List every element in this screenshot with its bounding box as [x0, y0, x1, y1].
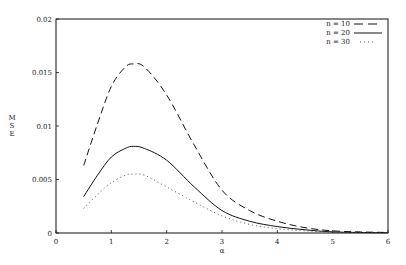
- x-tick-label: 6: [386, 238, 391, 246]
- y-tick-label: 0.01: [36, 123, 52, 131]
- svg-text:S: S: [10, 122, 15, 130]
- legend-item-n10: n = 10: [326, 20, 382, 28]
- y-tick-label: 0: [48, 230, 52, 238]
- x-tick-label: 2: [164, 238, 168, 246]
- series-line-n20: [84, 146, 388, 232]
- y-tick-label: 0.015: [32, 69, 52, 77]
- legend-item-n20: n = 20: [326, 29, 382, 37]
- x-axis-label: α: [220, 247, 225, 255]
- legend-item-n30: n = 30: [326, 38, 376, 46]
- y-axis-label: M S E: [8, 114, 15, 138]
- x-tick-label: 0: [54, 238, 58, 246]
- data-series: [84, 64, 388, 233]
- svg-text:n = 20: n = 20: [326, 29, 350, 37]
- svg-text:n = 30: n = 30: [326, 38, 350, 46]
- x-tick-label: 4: [275, 238, 280, 246]
- svg-text:n = 10: n = 10: [326, 20, 350, 28]
- legend: n = 10 n = 20 n = 30: [326, 20, 382, 46]
- x-tick-label: 1: [109, 238, 113, 246]
- y-axis-ticks: 00.0050.010.0150.02: [32, 16, 59, 238]
- x-tick-label: 5: [330, 238, 334, 246]
- svg-text:M: M: [8, 114, 15, 122]
- y-tick-label: 0.02: [36, 16, 52, 24]
- series-line-n30: [84, 174, 388, 233]
- series-line-n10: [84, 64, 388, 233]
- plot-frame: [56, 19, 388, 233]
- y-tick-label: 0.005: [32, 176, 52, 184]
- x-tick-label: 3: [220, 238, 224, 246]
- svg-text:E: E: [9, 130, 14, 138]
- mse-line-chart: 0123456 00.0050.010.0150.02 α M S E n = …: [0, 0, 406, 265]
